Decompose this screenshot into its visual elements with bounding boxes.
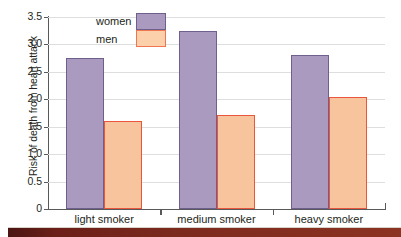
legend-swatch-men bbox=[136, 30, 166, 47]
bar-women-heavy-smoker bbox=[291, 55, 329, 209]
legend-swatches bbox=[136, 13, 166, 47]
bar-men-medium-smoker bbox=[217, 115, 255, 209]
legend-label-women: women bbox=[96, 13, 131, 30]
y-tick-label: 0 bbox=[10, 203, 42, 214]
x-axis-end-cap bbox=[385, 203, 386, 210]
bar-women-medium-smoker bbox=[179, 31, 217, 209]
bar-men-heavy-smoker bbox=[329, 97, 367, 209]
bar-women-light-smoker bbox=[66, 58, 104, 209]
legend-label-men: men bbox=[96, 31, 131, 48]
x-category-label: medium smoker bbox=[160, 213, 272, 225]
legend-swatch-women bbox=[136, 13, 166, 30]
y-tick-label: 2.5 bbox=[10, 66, 42, 77]
chart-figure: Risk of death from heart attack 00.51.01… bbox=[0, 0, 401, 237]
y-tick-label: 2.0 bbox=[10, 93, 42, 104]
x-category-separator bbox=[160, 209, 161, 215]
bar-men-light-smoker bbox=[104, 121, 142, 209]
x-category-label: heavy smoker bbox=[273, 213, 385, 225]
y-tick-label: 1.0 bbox=[10, 148, 42, 159]
chart-legend: women men bbox=[96, 13, 166, 48]
x-category-separator bbox=[273, 209, 274, 215]
y-tick-label: 3.5 bbox=[10, 11, 42, 22]
y-tick-label: 1.5 bbox=[10, 121, 42, 132]
x-category-label: light smoker bbox=[48, 213, 160, 225]
y-tick-label: 0.5 bbox=[10, 176, 42, 187]
bottom-decorative-band bbox=[8, 228, 401, 237]
legend-labels: women men bbox=[96, 13, 131, 48]
y-tick-label: 3.0 bbox=[10, 38, 42, 49]
x-axis-line bbox=[48, 209, 386, 210]
